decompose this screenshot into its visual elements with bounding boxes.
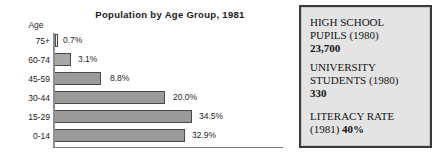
stat-label-line-1: UNIVERSITY [310,61,428,74]
bar-track [55,91,165,104]
age-axis-header: Age [22,20,50,30]
x-axis-baseline [53,147,283,148]
bar-fill [55,110,192,123]
stat-block-university: UNIVERSITY STUDENTS (1980) 330 [310,61,428,100]
stat-label-line-1: HIGH SCHOOL [310,16,428,29]
chart-title: Population by Age Group, 1981 [60,9,280,20]
bar-fill [55,91,165,104]
bar-row: 45-59 8.8% [0,71,292,89]
bar-row: 0-14 32.9% [0,128,292,146]
bar-category-label: 30-44 [6,93,50,103]
bar-track [55,129,185,142]
stat-value: 40% [342,123,364,135]
bar-category-label: 45-59 [6,74,50,84]
education-statistics-box: HIGH SCHOOL PUPILS (1980) 23,700 UNIVERS… [299,5,432,148]
bar-category-label: 60-74 [6,55,50,65]
bar-row: 15-29 34.5% [0,109,292,127]
stat-label-line-2: STUDENTS (1980) [310,74,428,87]
bar-category-label: 0-14 [6,131,50,141]
bar-value-label: 3.1% [78,54,97,64]
bar-fill [55,129,185,142]
bar-category-label: 75+ [6,36,50,46]
bar-row: 75+ 0.7% [0,33,292,51]
bar-track [55,110,192,123]
stat-label-line-1: LITERACY RATE [310,110,428,123]
bar-track [55,72,101,85]
bar-fill [55,34,58,47]
stat-year-prefix: (1981) [310,123,342,135]
bar-track [55,34,58,47]
bar-row: 30-44 20.0% [0,90,292,108]
bar-value-label: 8.8% [110,73,129,83]
bar-value-label: 20.0% [173,92,197,102]
bar-row: 60-74 3.1% [0,52,292,70]
bar-value-label: 34.5% [199,111,223,121]
bar-value-label: 0.7% [63,35,82,45]
bar-fill [55,72,101,85]
bar-chart-panel: Population by Age Group, 1981 Age 75+ 0.… [0,0,292,160]
stat-label-line-2: (1981) 40% [310,123,428,136]
bar-value-label: 32.9% [192,130,216,140]
bar-fill [55,53,71,66]
stat-label-line-2: PUPILS (1980) [310,29,428,42]
bar-category-label: 15-29 [6,112,50,122]
stat-value: 23,700 [310,42,428,55]
bar-track [55,53,71,66]
stat-value: 330 [310,87,428,100]
stat-block-high-school: HIGH SCHOOL PUPILS (1980) 23,700 [310,16,428,55]
stat-block-literacy-rate: LITERACY RATE (1981) 40% [310,110,428,136]
